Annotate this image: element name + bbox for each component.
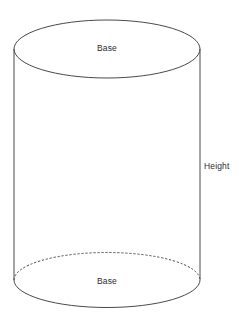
label-height: Height <box>204 161 229 171</box>
label-base-top: Base <box>0 43 214 53</box>
cylinder-figure: Base Base Height <box>0 0 249 324</box>
label-base-bottom: Base <box>0 276 214 286</box>
